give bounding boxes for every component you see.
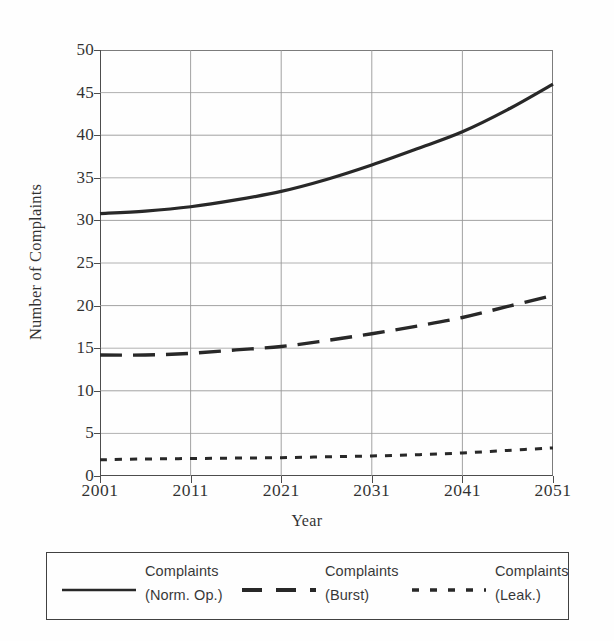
y-tick-label: 25: [48, 254, 94, 271]
y-tick-mark: [94, 220, 101, 221]
y-tick-label: 5: [48, 424, 94, 441]
x-tick-label: 2001: [60, 480, 140, 500]
y-tick-mark: [94, 263, 101, 264]
plot-canvas: [100, 50, 553, 476]
legend-label-line1: Complaints: [495, 563, 569, 579]
y-tick-mark: [94, 306, 101, 307]
chart-legend: Complaints(Norm. Op.)Complaints(Burst)Co…: [46, 552, 569, 620]
x-tick-label: 2041: [422, 480, 502, 500]
x-axis-title: Year: [0, 512, 614, 530]
legend-label-line1: Complaints: [325, 563, 399, 579]
series-lines: [100, 84, 553, 460]
x-tick-mark: [462, 476, 463, 483]
y-tick-mark: [94, 433, 101, 434]
legend-line-swatch-dotted: [411, 581, 487, 591]
legend-line-swatch-dashed: [241, 581, 317, 591]
x-tick-mark: [191, 476, 192, 483]
y-tick-label: 20: [48, 297, 94, 314]
y-tick-label: 10: [48, 382, 94, 399]
legend-label-line1: Complaints: [145, 563, 219, 579]
y-tick-label: 35: [48, 169, 94, 186]
complaints-forecast-figure: 05101520253035404550 2001201120212031204…: [0, 0, 614, 641]
x-tick-mark: [281, 476, 282, 483]
y-tick-mark: [94, 135, 101, 136]
x-tick-label: 2011: [151, 480, 231, 500]
y-tick-mark: [94, 391, 101, 392]
y-tick-label: 40: [48, 126, 94, 143]
y-axis-tick-labels: 05101520253035404550: [42, 0, 94, 545]
series-line-0: [100, 84, 553, 214]
y-tick-label: 15: [48, 339, 94, 356]
y-tick-label: 45: [48, 84, 94, 101]
y-tick-mark: [94, 93, 101, 94]
y-tick-mark: [94, 50, 101, 51]
y-tick-label: 30: [48, 211, 94, 228]
y-tick-label: 50: [48, 41, 94, 58]
gridlines: [100, 93, 553, 434]
legend-entry-2[interactable]: Complaints(Leak.): [411, 553, 581, 619]
legend-line-swatch-solid: [61, 581, 137, 591]
x-tick-label: 2051: [513, 480, 593, 500]
x-tick-label: 2021: [241, 480, 321, 500]
x-axis-tick-labels: 200120112021203120412051: [0, 480, 614, 510]
legend-entry-0[interactable]: Complaints(Norm. Op.): [61, 553, 231, 619]
y-axis-title: Number of Complaints: [26, 162, 46, 362]
y-tick-mark: [94, 178, 101, 179]
x-tick-mark: [100, 476, 101, 483]
legend-label-2: Complaints(Leak.): [495, 559, 614, 607]
y-tick-mark: [94, 348, 101, 349]
chart-plot-region: 05101520253035404550 2001201120212031204…: [0, 0, 614, 545]
x-tick-mark: [372, 476, 373, 483]
x-tick-mark: [553, 476, 554, 483]
series-line-1: [100, 295, 553, 355]
legend-entry-1[interactable]: Complaints(Burst): [241, 553, 411, 619]
series-line-2: [100, 448, 553, 460]
x-tick-label: 2031: [332, 480, 412, 500]
legend-label-line2: (Leak.): [495, 583, 614, 607]
